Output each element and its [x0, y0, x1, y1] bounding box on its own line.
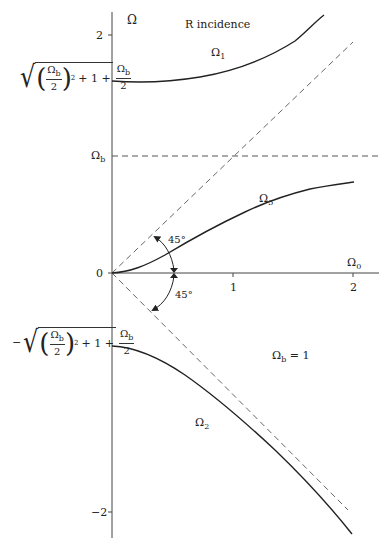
- y-tick-label-0: 0: [96, 268, 103, 279]
- curve-omega2: [112, 346, 352, 534]
- angle-label-lower: 45°: [175, 290, 193, 300]
- chart-title: R incidence: [185, 19, 250, 30]
- y-axis-label: Ω: [127, 14, 137, 26]
- angle-arc-lower: [153, 276, 174, 310]
- omega1-label: Ω1: [211, 47, 225, 61]
- y-tick-label-neg2: −2: [91, 507, 107, 518]
- sqrt-symbol: √: [23, 327, 38, 357]
- sqrt-symbol: √: [20, 62, 35, 92]
- x-tick-label-1: 1: [230, 282, 237, 293]
- omega3-label: Ω3: [259, 193, 273, 207]
- omega-b-tick-label: Ωb: [91, 150, 105, 164]
- lower-intercept-formula: − √ ( Ωb2 )2 + 1 + Ωb2: [12, 327, 134, 357]
- parameter-note: Ωb = 1: [272, 350, 309, 364]
- y-tick-label-2: 2: [96, 30, 103, 41]
- asymptote-lower: [112, 273, 348, 510]
- omega2-label: Ω2: [195, 417, 209, 431]
- asymptote-upper: [112, 42, 353, 273]
- angle-label-upper: 45°: [168, 235, 186, 245]
- x-tick-label-2: 2: [350, 282, 357, 293]
- x-axis-label: Ω0: [347, 257, 361, 271]
- upper-intercept-formula: √ ( Ωb2 )2 + 1 + Ωb2: [18, 62, 131, 92]
- curve-omega3: [112, 182, 354, 273]
